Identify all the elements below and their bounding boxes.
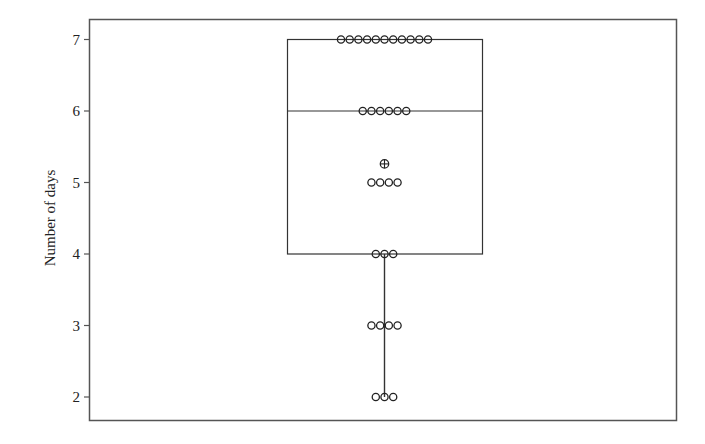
y-tick-label: 6 <box>73 103 81 119</box>
y-tick-label: 4 <box>73 246 81 262</box>
data-point <box>394 322 401 329</box>
plot-frame <box>90 20 677 421</box>
y-axis: 234567 <box>73 32 90 406</box>
data-point <box>394 179 401 186</box>
data-point <box>372 393 379 400</box>
y-tick-label: 2 <box>73 389 81 405</box>
data-point <box>377 179 384 186</box>
box <box>288 40 483 398</box>
data-point <box>385 179 392 186</box>
data-point <box>377 322 384 329</box>
data-point <box>390 393 397 400</box>
data-point <box>368 179 375 186</box>
data-point <box>385 322 392 329</box>
mean-marker <box>380 160 388 168</box>
y-axis-label: Number of days <box>42 170 58 267</box>
y-tick-label: 5 <box>73 175 81 191</box>
y-tick-label: 3 <box>73 318 81 334</box>
box-plot-chart: 234567 Number of days <box>0 0 705 444</box>
iqr-box <box>288 40 483 255</box>
data-point <box>368 322 375 329</box>
y-tick-label: 7 <box>73 32 81 48</box>
